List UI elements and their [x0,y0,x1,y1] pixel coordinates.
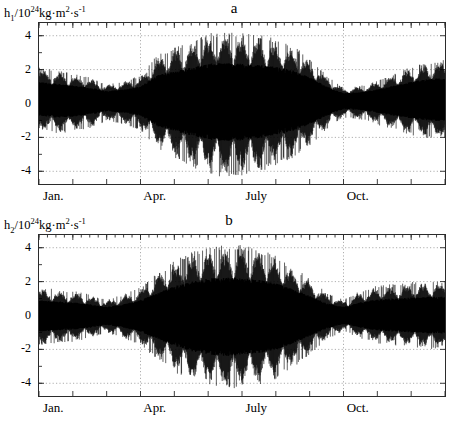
panel-a-waveform [39,23,445,184]
x-tick-label: Jan. [43,400,64,415]
y-tick-label: -4 [21,164,31,176]
panel-b-waveform [39,235,445,396]
x-tick-label: Apr. [143,188,166,203]
x-tick-label: Oct. [347,188,369,203]
y-tick-label: -2 [21,342,31,354]
y-tick-label: 4 [25,29,31,41]
panel-a-y-axis-label: h1/1024kg·m2·s-1 [4,6,86,20]
panel-a-plot-area [38,22,446,185]
figure-two-panel-angular-momentum: a h1/1024kg·m2·s-1 420-2-4 Jan.Apr.JulyO… [0,0,454,425]
panel-b-x-tick-labels: Jan.Apr.JulyOct. [38,400,446,418]
y-tick-label: 0 [25,309,31,321]
y-tick-label: 2 [25,275,31,287]
y-tick-label: 2 [25,63,31,75]
x-tick-label: Jan. [43,188,64,203]
panel-b-y-axis-label: h2/1024kg·m2·s-1 [4,218,86,232]
panel-b: b h2/1024kg·m2·s-1 420-2-4 Jan.Apr.JulyO… [0,212,454,425]
x-tick-label: Apr. [143,400,166,415]
x-tick-label: Oct. [347,400,369,415]
y-tick-label: -2 [21,130,31,142]
y-tick-label: 0 [25,97,31,109]
panel-a: a h1/1024kg·m2·s-1 420-2-4 Jan.Apr.JulyO… [0,0,454,212]
x-tick-label: July [245,400,267,415]
x-tick-label: July [245,188,267,203]
panel-a-x-tick-labels: Jan.Apr.JulyOct. [38,188,446,206]
y-tick-label: -4 [21,376,31,388]
panel-b-plot-area [38,234,446,397]
panel-b-y-tick-labels: 420-2-4 [0,234,34,397]
y-tick-label: 4 [25,241,31,253]
panel-a-y-tick-labels: 420-2-4 [0,22,34,185]
